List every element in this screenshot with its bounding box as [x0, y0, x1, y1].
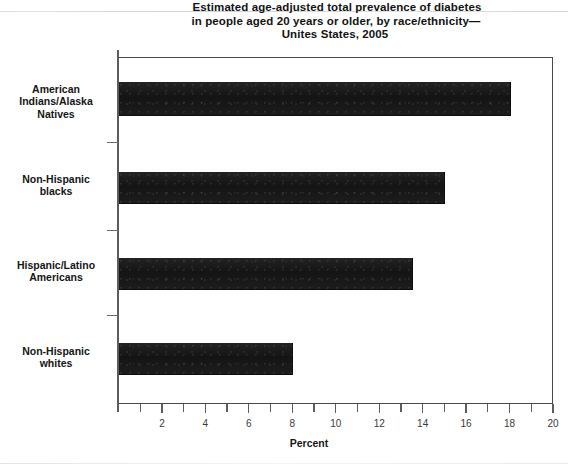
x-axis-tick — [313, 404, 314, 412]
x-axis-tick — [335, 404, 336, 413]
y-axis-label-line: Indians/Alaska — [0, 95, 112, 107]
x-axis-tick — [531, 404, 532, 412]
x-axis-tick — [400, 404, 401, 412]
x-axis-tick — [552, 404, 553, 413]
y-axis-tick — [107, 142, 118, 143]
y-axis-label: Non-Hispanicblacks — [0, 173, 112, 198]
x-axis-tick-label: 16 — [453, 418, 479, 429]
bar — [119, 172, 446, 204]
x-axis-tick — [183, 404, 184, 412]
x-axis-tick — [444, 404, 445, 412]
x-axis-tick-label: 14 — [410, 418, 436, 429]
bar — [119, 258, 413, 290]
x-axis-tick — [509, 404, 510, 413]
y-axis-label-line: Non-Hispanic — [0, 173, 112, 185]
x-axis-tick — [379, 404, 380, 413]
x-axis-tick-label: 20 — [540, 418, 566, 429]
y-axis-label-line: blacks — [0, 185, 112, 197]
x-axis-tick — [205, 404, 206, 413]
x-axis-tick — [292, 404, 293, 413]
y-axis-label-line: whites — [0, 357, 112, 369]
x-axis-tick — [248, 404, 249, 413]
y-axis-label-line: Hispanic/Latino — [0, 259, 112, 271]
x-axis-tick — [226, 404, 227, 412]
y-axis-label: Non-Hispanicwhites — [0, 345, 112, 370]
y-axis-label-line: Americans — [0, 271, 112, 283]
x-axis-title-text: Percent — [290, 437, 329, 449]
y-axis-tick — [107, 315, 118, 316]
x-axis-tick — [487, 404, 488, 412]
bar — [119, 343, 294, 375]
scan-artifact-line-bottom — [0, 463, 568, 464]
bar — [119, 82, 511, 116]
chart-title-line-1: Estimated age-adjusted total prevalence … — [114, 1, 560, 15]
x-axis-tick-label: 4 — [192, 418, 218, 429]
chart-title: Estimated age-adjusted total prevalence … — [110, 1, 560, 42]
x-axis-tick — [465, 404, 466, 413]
x-axis-tick-label: 18 — [497, 418, 523, 429]
x-axis-tick-label: 8 — [279, 418, 305, 429]
y-axis-label-line: Natives — [0, 108, 112, 120]
x-axis-tick — [161, 404, 162, 413]
x-axis-tick — [422, 404, 423, 413]
x-axis-tick — [270, 404, 271, 412]
x-axis-tick-label: 6 — [236, 418, 262, 429]
chart-title-line-2: in people aged 20 years or older, by rac… — [112, 15, 560, 29]
y-axis-label: Hispanic/LatinoAmericans — [0, 259, 112, 284]
x-axis-tick-label: 10 — [323, 418, 349, 429]
x-axis-tick — [118, 404, 119, 412]
x-axis-tick — [140, 404, 141, 412]
y-axis-tick — [107, 230, 118, 231]
x-axis-title: Percent — [0, 437, 568, 449]
y-axis-label-line: Non-Hispanic — [0, 345, 112, 357]
x-axis-tick-label: 12 — [366, 418, 392, 429]
x-axis-tick — [357, 404, 358, 412]
chart-title-line-3: Unites States, 2005 — [110, 28, 560, 42]
y-axis-label: AmericanIndians/AlaskaNatives — [0, 83, 112, 120]
x-axis-tick-label: 2 — [149, 418, 175, 429]
y-axis-label-line: American — [0, 83, 112, 95]
